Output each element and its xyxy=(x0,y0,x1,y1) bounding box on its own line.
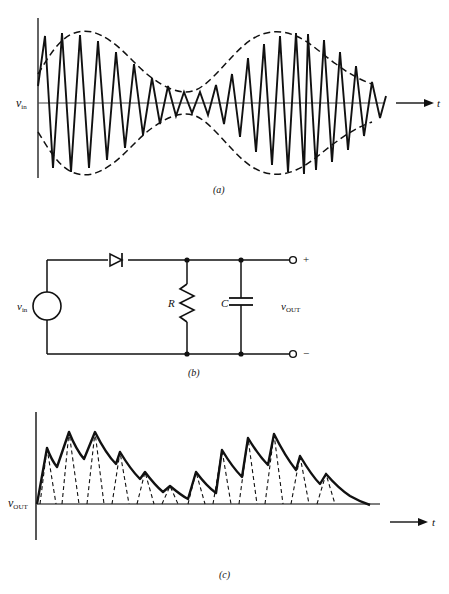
panel-b-circuit xyxy=(0,240,449,380)
terminal-plus-sign: + xyxy=(303,253,309,265)
terminal-minus-sign: − xyxy=(303,347,309,359)
junction-dot-c-bottom xyxy=(238,351,243,356)
panel-c-t-arrow-head xyxy=(418,518,428,526)
panel-c-y-label: vOUT xyxy=(8,496,28,511)
panel-c-x-label: t xyxy=(432,516,435,528)
source-label: vin xyxy=(17,300,27,312)
panel-c-waveform xyxy=(0,400,449,590)
panel-a-x-label: t xyxy=(437,97,440,109)
figure-envelope-detector: vin t (a) vin R C vOUT xyxy=(0,0,449,594)
junction-dot-c-top xyxy=(238,257,243,262)
output-terminal-positive xyxy=(290,257,297,264)
output-terminal-negative xyxy=(290,351,297,358)
panel-a-caption: (a) xyxy=(213,184,225,195)
output-label: vOUT xyxy=(281,300,300,312)
capacitor-label: C xyxy=(221,297,228,309)
panel-a-t-arrow-head xyxy=(424,99,434,107)
voltage-source-icon xyxy=(33,292,61,320)
junction-dot-r-top xyxy=(184,257,189,262)
resistor-icon xyxy=(180,284,194,322)
junction-dot-r-bottom xyxy=(184,351,189,356)
panel-b-caption: (b) xyxy=(188,367,200,378)
diode-icon xyxy=(110,254,122,266)
panel-a-waveform xyxy=(0,0,449,210)
panel-a-y-label: vin xyxy=(16,96,27,111)
panel-c-carrier-pulses xyxy=(40,432,335,504)
panel-c-caption: (c) xyxy=(219,569,230,580)
resistor-label: R xyxy=(168,297,175,309)
